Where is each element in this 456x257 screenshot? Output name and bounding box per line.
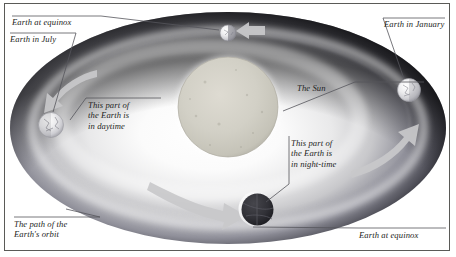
label-daytime: This part of the Earth is in daytime [88, 100, 129, 131]
orbit-illustration [0, 0, 456, 257]
label-earth-in-july: Earth in July [10, 34, 56, 44]
label-earth-at-equinox-top: Earth at equinox [12, 17, 71, 27]
label-earth-in-january: Earth in January [384, 19, 444, 29]
label-orbit-path: The path of the Earth's orbit [14, 219, 67, 240]
earth-at-equinox-bottom [239, 192, 274, 227]
label-earth-at-equinox-bottom: Earth at equinox [359, 230, 418, 240]
label-nighttime: This part of the Earth is in night-time [291, 138, 336, 169]
earth-in-july [39, 113, 64, 138]
earth-at-equinox-top [220, 25, 236, 41]
diagram-canvas: Earth at equinox Earth in July Earth in … [0, 0, 456, 257]
sun-sphere [177, 56, 279, 158]
label-the-sun: The Sun [297, 83, 326, 93]
